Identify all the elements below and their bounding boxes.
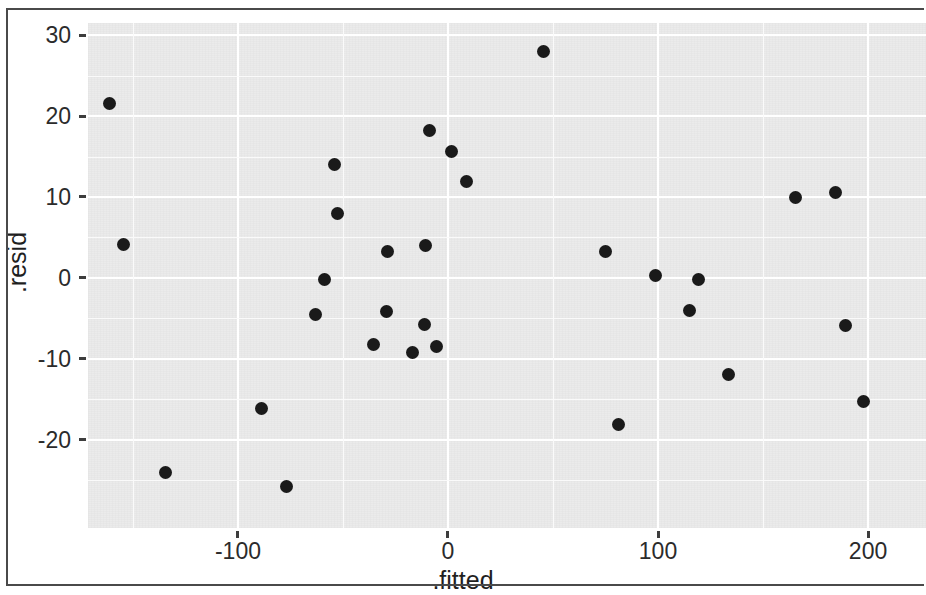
data-point: [423, 124, 436, 137]
gridline-major-vertical: [447, 23, 449, 528]
data-point: [318, 273, 331, 286]
data-point: [722, 368, 735, 381]
gridline-major-horizontal: [88, 439, 926, 441]
y-tick-label: -10: [38, 347, 71, 370]
y-tick-mark: [79, 195, 86, 198]
y-tick-label: 0: [58, 266, 71, 289]
data-point: [367, 338, 380, 351]
y-tick-mark: [79, 357, 86, 360]
data-point: [537, 45, 550, 58]
gridline-minor-horizontal: [88, 76, 926, 77]
gridline-minor-horizontal: [88, 480, 926, 481]
gridline-minor-horizontal: [88, 318, 926, 319]
gridline-major-horizontal: [88, 115, 926, 117]
gridline-major-horizontal: [88, 277, 926, 279]
y-tick-label: -20: [38, 428, 71, 451]
x-tick-label: 0: [442, 540, 455, 563]
x-tick-label: 200: [849, 540, 887, 563]
data-point: [103, 97, 116, 110]
x-tick-mark: [446, 531, 449, 538]
x-tick-label: 100: [639, 540, 677, 563]
x-tick-mark: [657, 531, 660, 538]
data-point: [419, 239, 432, 252]
x-tick-mark: [236, 531, 239, 538]
y-tick-mark: [79, 438, 86, 441]
gridline-minor-vertical: [133, 23, 134, 528]
data-point: [839, 319, 852, 332]
data-point: [380, 305, 393, 318]
panel-noise-texture: [88, 23, 926, 528]
gridline-minor-horizontal: [88, 157, 926, 158]
y-axis-label: .resid: [3, 93, 32, 433]
gridline-minor-vertical: [553, 23, 554, 528]
gridline-minor-vertical: [343, 23, 344, 528]
data-point: [418, 318, 431, 331]
gridline-minor-vertical: [763, 23, 764, 528]
data-point: [430, 340, 443, 353]
residuals-vs-fitted-scatter-plot: 3020100-10-20 -1000100200 .fitted .resid: [0, 0, 926, 595]
data-point: [649, 269, 662, 282]
x-tick-mark: [867, 531, 870, 538]
gridline-minor-horizontal: [88, 399, 926, 400]
x-tick-label: -100: [215, 540, 261, 563]
data-point: [599, 245, 612, 258]
y-tick-mark: [79, 115, 86, 118]
y-tick-mark: [79, 276, 86, 279]
data-point: [328, 158, 341, 171]
y-tick-label: 20: [45, 105, 71, 128]
gridline-minor-horizontal: [88, 237, 926, 238]
data-point: [692, 273, 705, 286]
screenshot-page: 3020100-10-20 -1000100200 .fitted .resid: [0, 0, 926, 595]
y-tick-label: 10: [45, 185, 71, 208]
x-axis-label: .fitted: [0, 566, 926, 595]
data-point: [789, 191, 802, 204]
data-point: [381, 245, 394, 258]
gridline-major-vertical: [237, 23, 239, 528]
gridline-major-horizontal: [88, 358, 926, 360]
gridline-major-vertical: [867, 23, 869, 528]
data-point: [280, 480, 293, 493]
y-tick-label: 30: [45, 24, 71, 47]
data-point: [829, 186, 842, 199]
plot-panel: [88, 23, 926, 528]
data-point: [683, 304, 696, 317]
data-point: [255, 402, 268, 415]
data-point: [159, 466, 172, 479]
gridline-major-horizontal: [88, 34, 926, 36]
y-tick-mark: [79, 34, 86, 37]
data-point: [309, 308, 322, 321]
data-point: [460, 175, 473, 188]
data-point: [117, 238, 130, 251]
data-point: [612, 418, 625, 431]
